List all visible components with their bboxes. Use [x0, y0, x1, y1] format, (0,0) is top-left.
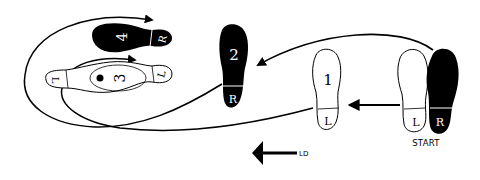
foot-label-3-heel: L [50, 77, 61, 84]
dance-step-diagram: 4 R 3 L L 2 R 1 L L R START [0, 0, 480, 180]
foot-label-1: L [324, 115, 332, 128]
footprint-start-left: L [398, 49, 428, 131]
step-number-3: 3 [112, 74, 128, 83]
ld-label: LD [299, 150, 308, 158]
step-number-1: 1 [323, 71, 333, 89]
footprint-step-2: 2 R [219, 24, 248, 107]
line-of-dance-indicator: LD [252, 141, 308, 165]
step-number-4: 4 [114, 32, 130, 41]
foot-label-start-left: L [412, 116, 420, 129]
footprint-start-right: R [427, 49, 459, 134]
footprint-step-3: 3 L L [46, 62, 172, 93]
weight-dot-icon [97, 75, 104, 82]
footprint-step-4: 4 R [92, 23, 172, 52]
foot-label-start-right: R [436, 116, 445, 129]
ld-arrow-icon [252, 141, 263, 165]
start-label: START [412, 138, 440, 148]
step-number-2: 2 [229, 46, 239, 64]
footprint-step-1: 1 L [313, 49, 341, 129]
foot-label-2: R [229, 93, 238, 106]
